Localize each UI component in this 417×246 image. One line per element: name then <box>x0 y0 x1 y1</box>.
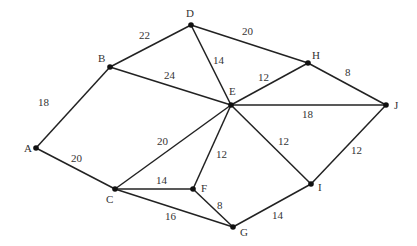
node-e <box>228 102 234 108</box>
edge-weight-f-g: 8 <box>217 199 223 211</box>
labels: 18202224142012818201416128121214ABCDEFGH… <box>24 7 399 238</box>
edge-weight-d-e: 14 <box>213 54 225 66</box>
edge-i-j <box>311 105 386 184</box>
node-label-i: I <box>318 181 322 193</box>
node-d <box>188 22 194 28</box>
node-g <box>230 224 236 230</box>
node-label-f: F <box>201 182 207 194</box>
edge-c-e <box>115 105 231 189</box>
node-label-h: H <box>312 49 320 61</box>
edge-weight-b-e: 24 <box>164 69 176 81</box>
nodes <box>33 22 389 230</box>
edge-d-e <box>191 25 231 105</box>
edge-f-e <box>193 105 231 189</box>
node-h <box>305 60 311 66</box>
edge-weight-a-c: 20 <box>71 152 83 164</box>
edge-weight-f-e: 12 <box>216 148 227 160</box>
node-label-a: A <box>24 142 32 154</box>
edge-b-d <box>110 25 191 67</box>
node-label-d: D <box>186 7 194 19</box>
edge-weight-c-f: 14 <box>156 174 168 186</box>
node-f <box>190 186 196 192</box>
edge-weight-e-j: 18 <box>302 108 314 120</box>
edge-weight-e-i: 12 <box>278 135 289 147</box>
weighted-graph: 18202224142012818201416128121214ABCDEFGH… <box>0 0 417 246</box>
edge-weight-c-g: 16 <box>165 210 177 222</box>
node-j <box>383 102 389 108</box>
edge-weight-a-b: 18 <box>38 96 50 108</box>
node-label-j: J <box>394 99 399 111</box>
node-c <box>112 186 118 192</box>
node-label-b: B <box>98 52 105 64</box>
edge-e-h <box>231 63 308 105</box>
edge-weight-g-i: 14 <box>272 209 284 221</box>
edge-weight-h-j: 8 <box>345 66 351 78</box>
node-label-e: E <box>229 85 236 97</box>
node-a <box>33 145 39 151</box>
edge-weight-i-j: 12 <box>351 144 362 156</box>
node-label-g: G <box>240 226 248 238</box>
node-label-c: C <box>106 193 113 205</box>
edge-weight-d-h: 20 <box>242 25 254 37</box>
node-i <box>308 181 314 187</box>
node-b <box>107 64 113 70</box>
edge-weight-b-d: 22 <box>139 29 150 41</box>
edge-weight-e-h: 12 <box>258 71 269 83</box>
edges <box>36 25 386 227</box>
edge-e-i <box>231 105 311 184</box>
edge-weight-c-e: 20 <box>157 135 169 147</box>
